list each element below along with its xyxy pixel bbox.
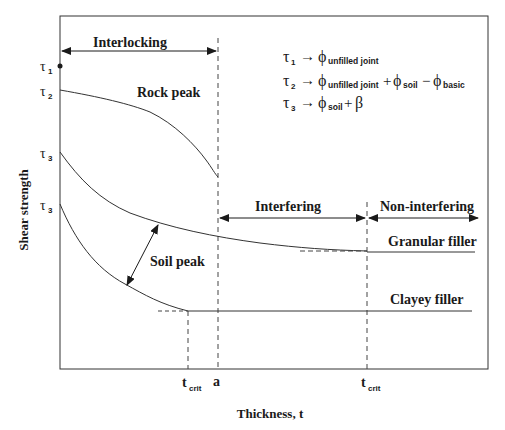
curve-label-clayey-filler: Clayey filler <box>390 292 463 307</box>
y-tick-tau3-upper: τ 3 <box>40 146 53 163</box>
svg-text:crit: crit <box>189 384 202 393</box>
svg-text:3: 3 <box>48 206 53 215</box>
svg-text:τ: τ <box>283 48 290 65</box>
svg-text:t: t <box>361 375 366 390</box>
equation-tau2: τ 2 → ϕ unfilled joint + ϕ soil − ϕ basi… <box>283 72 465 91</box>
svg-text:crit: crit <box>368 384 381 393</box>
x-tick-tcrit-right: t crit <box>361 375 381 393</box>
svg-text:τ: τ <box>40 146 46 161</box>
svg-text:unfilled joint: unfilled joint <box>328 80 379 90</box>
curve-label-granular-filler: Granular filler <box>388 234 477 249</box>
y-axis-label: Shear strength <box>16 168 31 250</box>
svg-text:β: β <box>355 94 363 112</box>
equation-tau3: τ 3 → ϕ soil + β <box>283 94 363 113</box>
x-axis-label: Thickness, t <box>237 406 304 421</box>
svg-text:2: 2 <box>48 92 53 101</box>
y-tick-tau3-lower: τ 3 <box>40 198 53 215</box>
svg-text:−: − <box>422 73 430 89</box>
x-tick-tcrit-left: t crit <box>182 375 202 393</box>
svg-text:→: → <box>300 94 315 110</box>
svg-text:2: 2 <box>291 82 296 91</box>
svg-text:τ: τ <box>40 198 46 213</box>
svg-text:1: 1 <box>48 67 53 76</box>
curve-label-rock-peak: Rock peak <box>137 85 201 100</box>
zone-label-non-interfering: Non-interfering <box>380 199 474 214</box>
svg-text:τ: τ <box>283 94 290 111</box>
svg-text:τ: τ <box>283 72 290 89</box>
y-tick-tau1: τ 1 <box>40 59 53 76</box>
svg-text:unfilled joint: unfilled joint <box>328 56 379 66</box>
curve-label-soil-peak: Soil peak <box>150 254 205 269</box>
svg-text:+: + <box>383 73 391 89</box>
svg-text:τ: τ <box>40 59 46 74</box>
zone-label-interlocking: Interlocking <box>93 35 167 50</box>
svg-text:basic: basic <box>443 80 465 90</box>
plot-frame <box>60 16 488 369</box>
svg-text:τ: τ <box>40 84 46 99</box>
svg-text:ϕ: ϕ <box>433 72 441 90</box>
svg-text:+: + <box>344 95 352 111</box>
svg-text:→: → <box>300 48 315 64</box>
svg-text:soil: soil <box>403 80 418 90</box>
tau1-point <box>58 64 63 69</box>
zone-label-interfering: Interfering <box>255 199 321 214</box>
svg-text:t: t <box>182 375 187 390</box>
svg-text:→: → <box>300 72 315 88</box>
svg-text:ϕ: ϕ <box>393 72 401 90</box>
svg-text:3: 3 <box>48 154 53 163</box>
svg-text:soil: soil <box>328 102 343 112</box>
x-tick-a: a <box>213 374 220 389</box>
svg-text:3: 3 <box>291 104 296 113</box>
svg-text:ϕ: ϕ <box>318 94 326 112</box>
svg-text:ϕ: ϕ <box>318 48 326 66</box>
y-tick-tau2: τ 2 <box>40 84 53 101</box>
rock-peak-curve <box>60 90 218 177</box>
equation-tau1: τ 1 → ϕ unfilled joint <box>283 48 379 67</box>
svg-text:1: 1 <box>291 58 296 67</box>
shear-strength-diagram: Interlocking Interfering Non-interfering… <box>0 0 505 430</box>
svg-text:ϕ: ϕ <box>318 72 326 90</box>
